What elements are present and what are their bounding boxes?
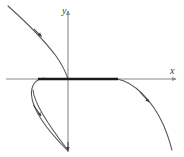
y-axis-label: y (61, 5, 67, 16)
axes-group (6, 11, 176, 152)
phase-plane-svg: x y (0, 0, 184, 157)
upper-left-branch-path (8, 6, 68, 79)
right-branch-path (117, 79, 172, 150)
arrow-lower-left-icon (34, 105, 42, 116)
x-axis-label: x (169, 65, 175, 76)
arrow-upper-left-icon (34, 29, 42, 37)
arrow-right-icon (140, 92, 149, 102)
left-loop-branch-path (31, 78, 68, 151)
phase-plane-figure: x y (0, 0, 184, 157)
lower-left-secondary-branch-path (33, 90, 67, 149)
